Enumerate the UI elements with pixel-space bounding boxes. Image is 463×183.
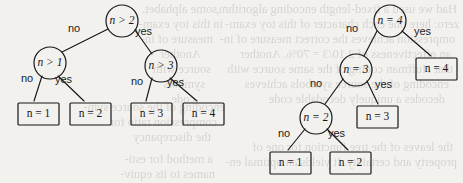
edge-label-no: no: [21, 72, 33, 84]
leaf-node-label: n = 1: [270, 156, 311, 168]
decision-node-label: n = 2: [288, 111, 344, 123]
tree-edge-no: [364, 31, 377, 56]
edge-label-no: no: [346, 22, 358, 34]
edge-label-no: no: [68, 22, 80, 34]
edge-label-no: no: [310, 77, 322, 89]
tree-edge-no: [288, 129, 305, 150]
decision-node-label: n > 2: [94, 14, 150, 26]
leaf-node-label: n = 2: [70, 107, 111, 119]
leaf-node-label: n = 2: [330, 156, 371, 168]
edge-label-yes: yes: [414, 25, 431, 37]
decision-node-label: n = 3: [328, 63, 384, 75]
edge-label-yes: yes: [135, 25, 152, 37]
leaf-node-label: n = 3: [357, 110, 398, 122]
tree-edge-no: [34, 76, 42, 101]
tree-edge-no: [325, 79, 343, 104]
decision-node-label: n > 3: [133, 59, 189, 71]
figure-canvas: Had we used a fixed-length encoding algo…: [0, 0, 463, 183]
tree-edge-no: [146, 78, 152, 101]
edge-label-no: no: [278, 127, 290, 139]
leaf-node-label: n = 1: [18, 107, 59, 119]
edge-label-yes: yes: [167, 76, 184, 88]
leaf-node-label: n = 3: [131, 107, 172, 119]
decision-node-label: n > 1: [22, 56, 78, 68]
edge-label-yes: yes: [328, 127, 345, 139]
edge-label-yes: yes: [55, 73, 72, 85]
edge-label-no: no: [131, 75, 143, 87]
leaf-node-label: n = 4: [183, 107, 224, 119]
decision-node-label: n = 4: [362, 14, 418, 26]
edge-label-yes: yes: [375, 78, 392, 90]
leaf-node-label: n = 4: [416, 62, 457, 74]
